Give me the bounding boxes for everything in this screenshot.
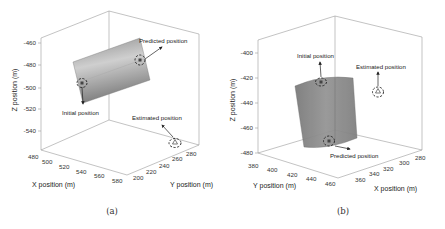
x-tick: 360 xyxy=(355,176,366,183)
estimated-label: Estimated position xyxy=(356,63,406,70)
x-tick: 500 xyxy=(42,158,53,165)
z-tick: -400 xyxy=(241,49,254,56)
x-tick: 540 xyxy=(76,168,87,175)
z-tick: -460 xyxy=(24,39,37,46)
plot-a-canvas: -460 -480 -500 -520 -540 Z position (m) … xyxy=(0,0,222,229)
z-axis-b: -400 -420 -440 -460 -480 Z position (m) xyxy=(229,49,258,156)
z-tick: -440 xyxy=(241,99,254,106)
axes-box-a xyxy=(41,11,199,175)
x-tick: 480 xyxy=(28,153,39,160)
z-tick: -460 xyxy=(241,124,254,131)
z-axis-a: -460 -480 -500 -520 -540 Z position (m) xyxy=(11,39,41,134)
z-axis-label: Z position (m) xyxy=(11,69,19,112)
y-tick: 440 xyxy=(306,175,317,182)
y-tick: 260 xyxy=(172,155,183,162)
y-axis-b: 380 400 420 440 460 Y position (m) xyxy=(248,162,336,190)
initial-label: Initial position xyxy=(297,52,334,59)
y-axis-label: Y position (m) xyxy=(253,182,296,190)
initial-label: Initial position xyxy=(62,109,99,116)
y-tick: 400 xyxy=(267,166,278,173)
cylinder-b xyxy=(295,77,357,148)
y-tick: 380 xyxy=(248,162,259,169)
x-tick: 580 xyxy=(112,177,123,184)
x-axis-b: 360 340 320 300 280 X position (m) xyxy=(355,154,426,193)
x-tick: 340 xyxy=(369,170,380,177)
x-tick: 320 xyxy=(383,165,394,172)
y-tick: 220 xyxy=(146,168,157,175)
x-axis-label: X position (m) xyxy=(32,181,75,189)
y-axis-a: 200 220 240 260 280 Y position (m) xyxy=(133,150,213,189)
estimated-marker-b: Estimated position xyxy=(356,63,406,97)
z-axis-label: Z position (m) xyxy=(229,79,237,122)
x-tick: 300 xyxy=(399,159,410,166)
x-tick: 280 xyxy=(415,154,426,161)
z-tick: -540 xyxy=(24,127,37,134)
z-tick: -480 xyxy=(241,149,254,156)
predicted-label: Predicted position xyxy=(139,37,187,44)
caption-a: (a) xyxy=(106,206,118,216)
x-axis-a: 480 500 520 540 560 580 X position (m) xyxy=(28,153,123,189)
figure-b: -400 -420 -440 -460 -480 Z position (m) … xyxy=(223,0,445,229)
figure-a: -460 -480 -500 -520 -540 Z position (m) … xyxy=(0,0,222,229)
z-tick: -420 xyxy=(241,74,254,81)
predicted-label: Predicted position xyxy=(330,152,378,159)
y-tick: 200 xyxy=(133,174,144,181)
cylinder-a xyxy=(73,38,150,103)
x-tick: 560 xyxy=(94,172,105,179)
z-tick: -500 xyxy=(24,84,37,91)
y-axis-label: Y position (m) xyxy=(170,181,213,189)
estimated-label: Estimated position xyxy=(132,114,182,121)
y-tick: 240 xyxy=(159,162,170,169)
y-tick: 280 xyxy=(186,150,197,157)
z-tick: -520 xyxy=(24,105,37,112)
caption-b: (b) xyxy=(337,206,349,216)
y-tick: 460 xyxy=(325,180,336,187)
x-axis-label: X position (m) xyxy=(374,185,417,193)
x-tick: 520 xyxy=(59,163,70,170)
plot-b-canvas: -400 -420 -440 -460 -480 Z position (m) … xyxy=(223,0,445,229)
y-tick: 420 xyxy=(287,171,298,178)
z-tick: -480 xyxy=(24,61,37,68)
estimated-marker-a: Estimated position xyxy=(132,114,182,148)
